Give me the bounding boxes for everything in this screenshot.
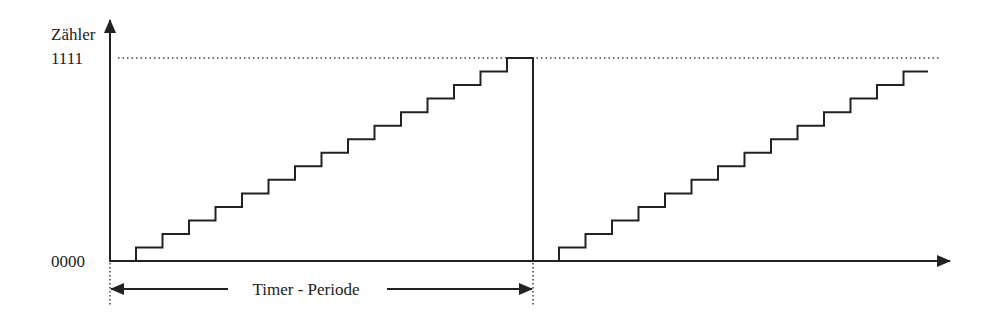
- timer-counter-diagram: Zähler 1111 0000 Timer - Periode: [0, 0, 997, 325]
- counter-ramp-1: [136, 58, 533, 261]
- y-axis-label: Zähler: [51, 25, 96, 44]
- period-label: Timer - Periode: [252, 280, 359, 299]
- bottom-value-label: 0000: [51, 252, 85, 271]
- top-value-label: 1111: [51, 49, 83, 68]
- counter-ramp-2: [559, 72, 928, 261]
